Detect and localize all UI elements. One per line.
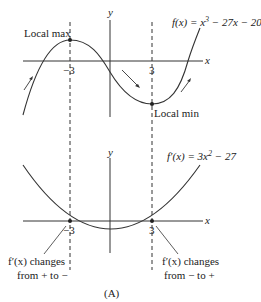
right-note-pointer — [156, 226, 178, 254]
bottom-tick-neg3: −3 — [63, 224, 75, 236]
bottom-y-label: y — [107, 146, 113, 158]
root-neg3-point — [68, 219, 72, 223]
top-tick-neg3: −3 — [63, 64, 75, 76]
bottom-x-label: x — [204, 214, 210, 226]
cubic-function-label: f(x) = x3 − 27x − 20 — [172, 15, 261, 29]
left-note-line2: from + to − — [17, 269, 68, 281]
top-y-label: y — [107, 6, 113, 18]
local-max-label: Local max — [24, 27, 71, 39]
decreasing-arrow-middle — [122, 70, 140, 88]
root-pos3-point — [150, 219, 154, 223]
top-tick-pos3: 3 — [149, 64, 155, 76]
local-min-label: Local min — [154, 107, 199, 119]
cubic-curve — [23, 28, 200, 115]
parabola-curve — [23, 165, 200, 229]
right-note-line2: from − to + — [164, 269, 215, 281]
right-note-line1: f′(x) changes — [162, 255, 219, 268]
figure-caption: (A) — [104, 287, 120, 300]
top-x-label: x — [204, 54, 210, 66]
local-min-point — [150, 102, 154, 106]
bottom-tick-pos3: 3 — [149, 224, 155, 236]
derivative-diagram: y x −3 3 Local max Local min f(x) = x3 −… — [0, 0, 261, 302]
bottom-graph: y x −3 3 f′(x) = 3x2 − 27 f′(x) changes … — [8, 146, 236, 281]
left-note-line1: f′(x) changes — [8, 255, 65, 268]
derivative-function-label: f′(x) = 3x2 − 27 — [167, 149, 236, 163]
top-graph: y x −3 3 Local max Local min f(x) = x3 −… — [23, 6, 261, 119]
increasing-arrow-right — [181, 78, 191, 92]
